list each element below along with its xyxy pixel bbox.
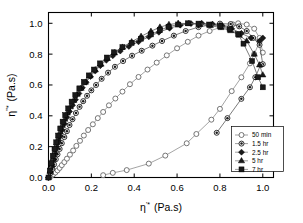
data-point-open-circle <box>217 106 222 111</box>
data-point-open-circle <box>207 29 212 34</box>
data-point-filled-square <box>256 75 261 80</box>
data-point-filled-square <box>56 133 61 138</box>
data-point-open-circle <box>175 46 180 51</box>
y-tick-label: 1.0 <box>29 18 42 29</box>
data-point-half-filled-circle <box>183 29 188 34</box>
data-point-half-filled-circle <box>85 93 90 98</box>
data-point-half-filled-circle <box>160 39 165 44</box>
data-point-open-circle <box>106 103 111 108</box>
data-point-filled-square <box>91 67 96 72</box>
data-point-filled-square <box>157 28 162 33</box>
data-point-filled-square <box>86 73 91 78</box>
data-point-half-filled-circle <box>239 96 244 101</box>
y-tick-label: 0.4 <box>29 110 42 121</box>
x-tick-label: 0.4 <box>128 182 141 193</box>
data-point-open-circle <box>239 133 244 138</box>
data-point-filled-square <box>81 79 86 84</box>
data-point-open-circle <box>185 39 190 44</box>
legend: 50 min1.5 hr2.5 hr5 hr7 hr <box>232 127 284 173</box>
data-point-half-filled-circle <box>112 64 117 69</box>
data-point-filled-square <box>47 168 52 173</box>
y-tick-label: 0.2 <box>29 141 42 152</box>
data-point-half-filled-circle <box>73 111 78 116</box>
data-point-filled-square <box>111 50 116 55</box>
data-point-open-circle <box>239 75 244 80</box>
data-point-open-circle <box>101 109 106 114</box>
chart-figure: 0.00.20.40.60.81.0 0.00.20.40.60.81.0 η'… <box>0 0 303 223</box>
data-point-half-filled-circle <box>70 117 75 122</box>
data-point-half-filled-circle <box>94 82 99 87</box>
data-point-half-filled-circle <box>121 59 126 64</box>
data-point-half-filled-circle <box>244 29 249 34</box>
data-point-filled-square <box>69 99 74 104</box>
data-point-open-circle <box>145 67 150 72</box>
legend-label: 7 hr <box>252 166 264 173</box>
data-point-half-filled-circle <box>247 85 252 90</box>
data-point-open-circle <box>229 89 234 94</box>
cole-cole-plot: 0.00.20.40.60.81.0 0.00.20.40.60.81.0 η'… <box>0 0 303 223</box>
x-tick-label: 0.8 <box>213 182 226 193</box>
data-point-half-filled-circle <box>99 76 104 81</box>
legend-label: 50 min <box>252 131 272 138</box>
data-point-half-filled-circle <box>77 104 82 109</box>
legend-item-50-min[interactable]: 50 min <box>235 131 272 138</box>
data-point-open-circle <box>78 138 83 143</box>
data-point-half-filled-circle <box>150 43 155 48</box>
data-point-filled-square <box>185 21 190 26</box>
legend-label: 2.5 hr <box>252 149 269 156</box>
data-point-filled-square <box>120 45 125 50</box>
data-point-filled-square <box>63 113 68 118</box>
data-point-filled-square <box>236 32 241 37</box>
data-point-open-circle <box>196 33 201 38</box>
data-point-open-circle <box>74 143 79 148</box>
data-point-filled-square <box>139 36 144 41</box>
data-point-filled-square <box>73 93 78 98</box>
data-point-open-circle <box>146 161 151 166</box>
data-point-filled-square <box>54 140 59 145</box>
data-point-open-circle <box>86 128 91 133</box>
data-point-filled-square <box>66 106 71 111</box>
data-point-open-circle <box>127 82 132 87</box>
y-tick-label: 0.8 <box>29 49 42 60</box>
data-point-filled-square <box>227 27 232 32</box>
data-point-filled-square <box>58 126 63 131</box>
x-axis-superscript: '* <box>146 201 150 208</box>
data-point-filled-square <box>241 41 246 46</box>
y-axis-units: (Pa.s) <box>5 73 17 101</box>
data-point-half-filled-circle <box>171 33 176 38</box>
data-point-filled-square <box>260 85 265 90</box>
data-point-open-circle <box>252 26 257 31</box>
data-point-open-circle <box>113 96 118 101</box>
data-point-open-circle <box>120 89 125 94</box>
data-point-open-circle <box>110 170 115 175</box>
data-point-half-filled-circle <box>228 22 233 27</box>
data-point-filled-square <box>77 86 82 91</box>
data-point-half-filled-circle <box>64 129 69 134</box>
data-point-filled-square <box>148 32 153 37</box>
legend-label: 5 hr <box>252 157 264 164</box>
data-point-open-circle <box>209 117 214 122</box>
data-point-open-circle <box>244 22 249 27</box>
data-point-filled-square <box>239 167 244 172</box>
data-point-open-circle <box>124 168 129 173</box>
y-tick-label: 0.0 <box>29 172 42 183</box>
data-point-filled-square <box>176 22 181 27</box>
data-point-open-circle <box>101 173 106 178</box>
x-tick-label: 0.0 <box>42 182 55 193</box>
data-point-open-circle <box>81 133 86 138</box>
data-point-filled-square <box>97 61 102 66</box>
data-point-filled-square <box>217 24 222 29</box>
data-point-filled-square <box>250 59 255 64</box>
data-point-half-filled-circle <box>106 70 111 75</box>
data-point-half-filled-circle <box>139 48 144 53</box>
data-point-open-circle <box>164 53 169 58</box>
y-tick-label: 0.6 <box>29 79 42 90</box>
data-point-half-filled-circle <box>67 123 72 128</box>
data-point-open-circle <box>71 148 76 153</box>
data-point-filled-square <box>129 41 134 46</box>
data-point-open-circle <box>95 116 100 121</box>
data-point-half-filled-circle <box>89 88 94 93</box>
data-point-half-filled-circle <box>81 99 86 104</box>
x-tick-label: 0.6 <box>170 182 183 193</box>
data-point-half-filled-circle <box>214 130 219 135</box>
